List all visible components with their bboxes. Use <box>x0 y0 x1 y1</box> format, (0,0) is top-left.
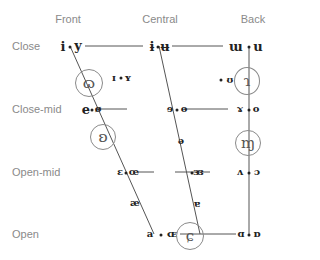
vowel-ash: æ <box>130 198 140 208</box>
vowel-upsilon: ʊ <box>227 75 234 85</box>
vowel-oe-ligature: œ <box>129 167 139 177</box>
vowel-barred-o: ɵ <box>181 104 188 114</box>
vowel-open-e: ɛ <box>117 167 123 177</box>
vowel-a: a <box>147 229 153 239</box>
vowel-pair-dot <box>248 46 251 49</box>
vowel-pair-dot <box>157 46 160 49</box>
vowel-turned-script-a: ɒ <box>254 229 261 239</box>
circled-glyph: ʚ <box>98 130 107 145</box>
vowel-pair-dot <box>160 234 163 237</box>
circled-symbol-back-lower: ɱ <box>235 130 261 156</box>
circled-symbol-open-central: ɕ <box>176 222 204 250</box>
vowel-barred-i: ɨ <box>150 40 155 53</box>
vowel-closed-reversed-open-e: ɞ <box>196 167 203 177</box>
vowel-u: u <box>253 40 262 53</box>
vowel-reversed-e: ɘ <box>167 104 173 114</box>
circled-symbol-front-lower: ʚ <box>90 124 116 150</box>
vowel-o-slash: ø <box>95 104 102 114</box>
circled-glyph: ɱ <box>241 136 255 151</box>
vowel-rams-horn: ɤ <box>237 104 243 114</box>
vowel-pair-dot <box>248 234 251 237</box>
vowel-pair-dot <box>176 109 179 112</box>
vowel-barred-u: ʉ <box>160 40 169 53</box>
vowel-pair-dot <box>248 172 251 175</box>
vowel-i: i <box>61 40 66 53</box>
vowel-open-o: ɔ <box>254 167 260 177</box>
vowel-o: o <box>253 104 260 114</box>
vowel-turned-v: ʌ <box>237 167 243 177</box>
vowel-pair-dot <box>125 172 128 175</box>
circled-glyph: ɿ <box>244 74 251 89</box>
vowel-schwa: ə <box>178 136 184 146</box>
vowel-e: e <box>82 103 90 116</box>
vowel-pair-dot <box>220 79 223 82</box>
vowel-turned-a: ɐ <box>194 199 200 209</box>
vowel-pair-dot <box>248 109 251 112</box>
vowel-small-cap-i: ɪ <box>112 73 116 83</box>
vowel-pair-dot <box>69 46 72 49</box>
circled-symbol-back-upper: ɿ <box>234 67 260 95</box>
circled-glyph: ɷ <box>83 76 95 91</box>
circled-glyph: ɕ <box>186 229 194 244</box>
vowel-script-a: ɑ <box>238 229 245 239</box>
vowel-pair-dot <box>191 172 194 175</box>
vowel-pair-dot <box>91 109 94 112</box>
vowel-turned-m: ɯ <box>229 40 243 53</box>
vowel-pair-dot <box>120 77 123 80</box>
circled-symbol-front-upper: ɷ <box>75 69 103 97</box>
vowel-small-cap-y: ʏ <box>124 73 131 83</box>
vowel-y: y <box>74 39 82 52</box>
